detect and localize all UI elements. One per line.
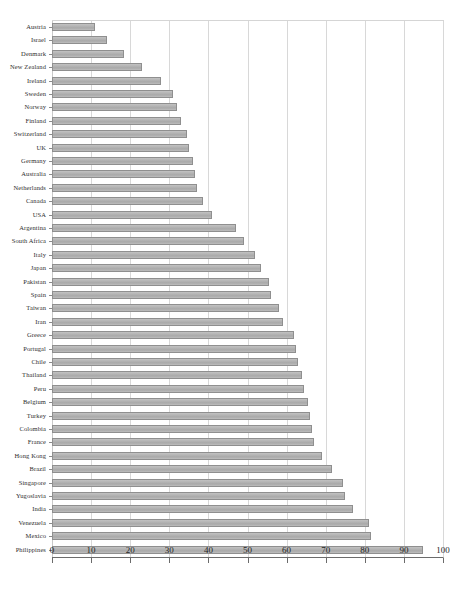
y-tick <box>49 429 52 430</box>
x-tick-label: 60 <box>267 545 307 555</box>
bar-row <box>52 450 443 463</box>
x-tick-40 <box>208 558 209 563</box>
y-tick <box>49 389 52 390</box>
bar <box>52 184 197 192</box>
y-tick <box>49 483 52 484</box>
bar-row <box>52 369 443 382</box>
y-tick <box>49 523 52 524</box>
x-tick-label: 50 <box>228 545 268 555</box>
bar-row <box>52 142 443 155</box>
x-tick-10 <box>91 558 92 563</box>
category-label-usa: USA <box>0 208 46 221</box>
bar <box>52 385 304 393</box>
bar <box>52 117 181 125</box>
x-tick-0 <box>52 558 53 563</box>
category-label-netherlands: Netherlands <box>0 181 46 194</box>
category-label-turkey: Turkey <box>0 409 46 422</box>
bar <box>52 291 271 299</box>
bar <box>52 438 314 446</box>
bar-row <box>52 316 443 329</box>
bar-row <box>52 155 443 168</box>
bar-row <box>52 436 443 449</box>
bar <box>52 103 177 111</box>
bar <box>52 358 298 366</box>
bar <box>52 224 236 232</box>
bar-chart: AustriaIsraelDenmarkNew ZealandIrelandSw… <box>0 0 465 590</box>
y-tick <box>49 94 52 95</box>
x-tick-label: 40 <box>188 545 228 555</box>
x-tick-30 <box>169 558 170 563</box>
y-tick <box>49 161 52 162</box>
bar-row <box>52 262 443 275</box>
bar-row <box>52 517 443 530</box>
y-tick <box>49 107 52 108</box>
bar <box>52 170 195 178</box>
bar <box>52 237 244 245</box>
y-tick <box>49 282 52 283</box>
x-tick-label: 20 <box>110 545 150 555</box>
y-tick <box>49 375 52 376</box>
category-label-japan: Japan <box>0 261 46 274</box>
bar <box>52 251 255 259</box>
bar <box>52 345 296 353</box>
category-label-thailand: Thailand <box>0 368 46 381</box>
bar-row <box>52 115 443 128</box>
bar-row <box>52 61 443 74</box>
category-label-south-africa: South Africa <box>0 234 46 247</box>
category-label-brazil: Brazil <box>0 462 46 475</box>
x-tick-50 <box>248 558 249 563</box>
category-label-belgium: Belgium <box>0 395 46 408</box>
y-tick <box>49 496 52 497</box>
category-label-france: France <box>0 435 46 448</box>
x-tick-60 <box>287 558 288 563</box>
bar <box>52 144 189 152</box>
bar-row <box>52 128 443 141</box>
bar <box>52 331 294 339</box>
category-label-ireland: Ireland <box>0 74 46 87</box>
y-tick <box>49 174 52 175</box>
bar <box>52 452 322 460</box>
category-label-uk: UK <box>0 141 46 154</box>
x-tick-label: 100 <box>423 545 463 555</box>
y-tick <box>49 40 52 41</box>
bar-row <box>52 329 443 342</box>
bar-row <box>52 88 443 101</box>
bar <box>52 505 353 513</box>
bar-row <box>52 477 443 490</box>
x-tick-label: 0 <box>32 545 72 555</box>
bar <box>52 412 310 420</box>
y-tick <box>49 402 52 403</box>
category-label-sweden: Sweden <box>0 87 46 100</box>
y-tick <box>49 442 52 443</box>
x-tick-label: 90 <box>384 545 424 555</box>
bar <box>52 371 302 379</box>
y-tick <box>49 255 52 256</box>
category-label-mexico: Mexico <box>0 529 46 542</box>
bar <box>52 398 308 406</box>
bar-row <box>52 383 443 396</box>
category-label-argentina: Argentina <box>0 221 46 234</box>
category-label-hong-kong: Hong Kong <box>0 449 46 462</box>
bar <box>52 425 312 433</box>
bar <box>52 278 269 286</box>
bar-row <box>52 423 443 436</box>
bar <box>52 50 124 58</box>
bar <box>52 465 332 473</box>
y-tick <box>49 27 52 28</box>
bar <box>52 157 193 165</box>
bar-row <box>52 222 443 235</box>
y-tick <box>49 188 52 189</box>
bar-row <box>52 168 443 181</box>
bar <box>52 318 283 326</box>
bar-row <box>52 21 443 34</box>
y-tick <box>49 335 52 336</box>
bar-row <box>52 289 443 302</box>
bar <box>52 197 203 205</box>
bar <box>52 77 161 85</box>
category-label-canada: Canada <box>0 194 46 207</box>
bar <box>52 304 279 312</box>
y-tick <box>49 469 52 470</box>
category-label-singapore: Singapore <box>0 476 46 489</box>
x-tick-20 <box>130 558 131 563</box>
bar <box>52 211 212 219</box>
